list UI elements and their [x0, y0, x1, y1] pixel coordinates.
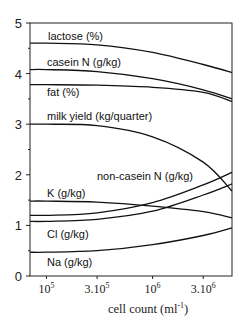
label-casein: casein N (g/kg): [47, 56, 121, 68]
x-axis-label: cell count (ml-1): [108, 301, 188, 316]
label-milk-yield: milk yield (kg/quarter): [47, 110, 152, 122]
x-tick-label: 106: [145, 281, 161, 296]
label-non-casein: non-casein N (g/kg): [97, 170, 193, 182]
y-tick-label: 3: [15, 117, 22, 132]
label-cl: Cl (g/kg): [47, 228, 89, 240]
x-tick-label: 3.105: [85, 281, 110, 296]
y-tick-label: 5: [15, 16, 22, 31]
label-fat: fat (%): [47, 86, 79, 98]
series-lines: [30, 43, 232, 252]
x-tick-label: 105: [38, 281, 54, 296]
y-tick-label: 4: [15, 67, 22, 82]
label-k: K (g/kg): [47, 187, 86, 199]
y-tick-label: 2: [15, 168, 22, 183]
chart: 012345 1053.1051063.106 lactose (%) case…: [0, 0, 243, 330]
y-axis: 012345: [15, 16, 30, 284]
x-axis: 1053.1051063.106: [38, 276, 215, 296]
y-tick-label: 1: [15, 218, 22, 233]
label-na: Na (g/kg): [47, 256, 92, 268]
series-labels: lactose (%) casein N (g/kg) fat (%) milk…: [47, 30, 193, 268]
x-tick-label: 3.106: [191, 281, 216, 296]
y-tick-label: 0: [15, 269, 22, 284]
label-lactose: lactose (%): [48, 30, 103, 42]
